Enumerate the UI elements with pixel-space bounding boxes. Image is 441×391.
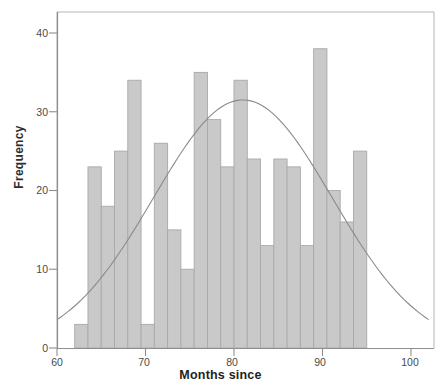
y-tick-label-20: 20 [26,184,48,196]
histogram-bar [340,222,353,348]
x-tick-label-80: 80 [219,356,245,368]
histogram-bar [287,167,300,348]
y-axis-title: Frequency [12,112,26,202]
y-tick-label-30: 30 [26,106,48,118]
histogram-bar [274,159,287,348]
histogram-bar [194,72,207,348]
histogram-bar [128,80,141,348]
histogram-bar [300,246,313,348]
histogram-bar [154,143,167,348]
x-tick-label-60: 60 [44,356,70,368]
x-tick-label-70: 70 [131,356,157,368]
histogram-bar [168,230,181,348]
x-axis-title: Months since [0,368,441,382]
histogram-bar [261,246,274,348]
histogram-chart: Frequency Months since 40 30 20 10 0 60 … [0,0,441,391]
histogram-bar [101,206,114,348]
y-tick-label-0: 0 [26,342,48,354]
histogram-bar [88,167,101,348]
histogram-bar [234,80,247,348]
y-tick-label-10: 10 [26,263,48,275]
x-tick-label-100: 100 [395,356,425,368]
x-tick-label-90: 90 [307,356,333,368]
histogram-bar [221,167,234,348]
histogram-bar [207,120,220,348]
histogram-bars [75,49,367,348]
histogram-bar [141,324,154,348]
histogram-bar [327,191,340,349]
histogram-bar [314,49,327,348]
plot-area [0,0,441,391]
y-tick-label-40: 40 [26,27,48,39]
histogram-bar [75,324,88,348]
histogram-bar [247,159,260,348]
histogram-bar [181,269,194,348]
